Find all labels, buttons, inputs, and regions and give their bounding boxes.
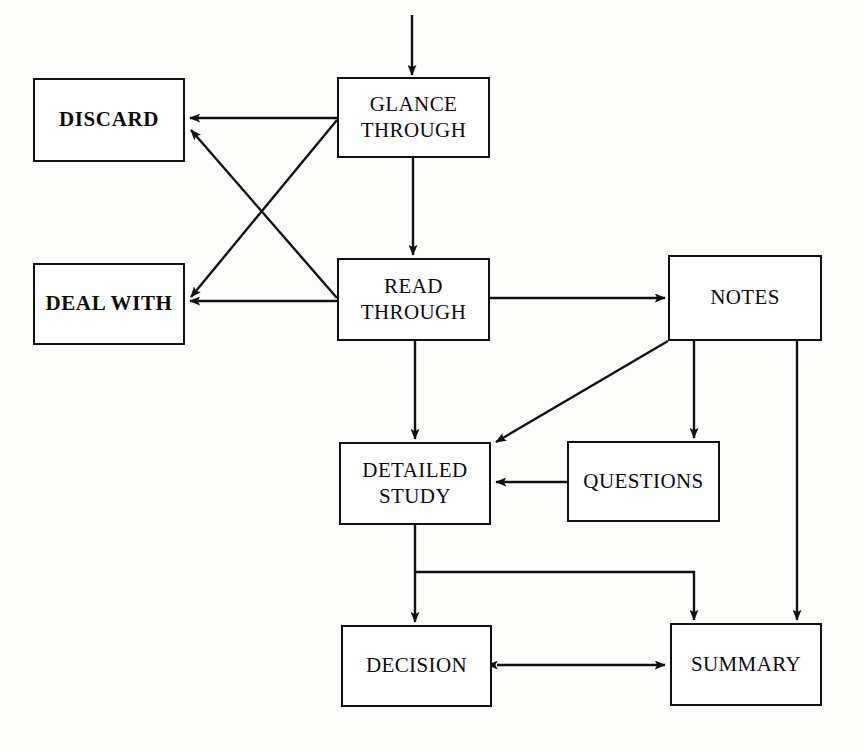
node-glance-through-label: GLANCE THROUGH xyxy=(361,92,466,143)
node-summary[interactable]: SUMMARY xyxy=(670,623,822,706)
node-discard-label: DISCARD xyxy=(59,107,159,133)
node-decision[interactable]: DECISION xyxy=(341,625,492,707)
node-detailed-study[interactable]: DETAILED STUDY xyxy=(339,442,491,525)
edge-detailed-to-summary xyxy=(415,572,694,620)
edge-read-to-discard xyxy=(191,130,337,298)
edge-notes-to-detailed xyxy=(496,341,668,442)
node-glance-through[interactable]: GLANCE THROUGH xyxy=(337,77,490,158)
node-summary-label: SUMMARY xyxy=(691,652,801,678)
node-deal-with[interactable]: DEAL WITH xyxy=(33,263,185,345)
node-questions-label: QUESTIONS xyxy=(583,469,703,495)
flowchart-canvas: DISCARD DEAL WITH GLANCE THROUGH READ TH… xyxy=(0,0,863,751)
node-read-through[interactable]: READ THROUGH xyxy=(337,258,490,341)
edge-glance-to-dealwith xyxy=(191,120,337,297)
node-notes-label: NOTES xyxy=(710,285,780,311)
node-read-through-label: READ THROUGH xyxy=(361,274,466,325)
node-notes[interactable]: NOTES xyxy=(668,255,822,341)
node-questions[interactable]: QUESTIONS xyxy=(567,441,720,522)
node-discard[interactable]: DISCARD xyxy=(33,78,185,162)
node-detailed-study-label: DETAILED STUDY xyxy=(362,458,467,509)
node-decision-label: DECISION xyxy=(366,653,467,679)
node-deal-with-label: DEAL WITH xyxy=(46,291,173,317)
